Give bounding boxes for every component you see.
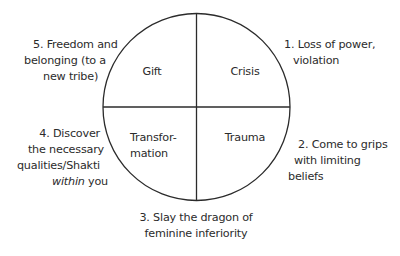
stage-4-italic-word: within [52, 175, 85, 188]
quadrant-transformation: Transfor- mation [130, 130, 192, 162]
stage-4-line4: within you [14, 174, 108, 190]
stage-5-line2: belonging (to a [24, 53, 112, 69]
stage-4-line1: 4. Discover [14, 126, 108, 142]
stage-3-line2: feminine inferiority [120, 226, 272, 242]
stage-4-rest: you [85, 175, 108, 188]
stage-5-label: 5. Freedom and belonging (to a new tribe… [24, 37, 112, 85]
stage-1-line1: 1. Loss of power, [284, 37, 375, 53]
quadrant-crisis-text: Crisis [230, 65, 259, 78]
stage-2-label: 2. Come to grips with limiting beliefs [288, 137, 388, 185]
stage-4-line3: qualities/Shakti [14, 158, 108, 174]
stage-5-line3: new tribe) [24, 69, 112, 85]
stage-4-line2: the necessary [14, 142, 108, 158]
stage-5-line1: 5. Freedom and [24, 37, 112, 53]
quadrant-trauma: Trauma [214, 130, 276, 146]
stage-1-label: 1. Loss of power, violation [284, 37, 375, 69]
stage-3-label: 3. Slay the dragon of feminine inferiori… [120, 210, 272, 242]
quadrant-gift: Gift [124, 64, 180, 80]
quadrant-gift-text: Gift [142, 65, 161, 78]
stage-2-line2: with limiting [288, 153, 388, 169]
stage-2-line3: beliefs [288, 169, 388, 185]
stage-2-line1: 2. Come to grips [288, 137, 388, 153]
quadrant-crisis: Crisis [214, 64, 276, 80]
stage-1-line2: violation [284, 53, 375, 69]
quadrant-trauma-text: Trauma [225, 131, 265, 144]
stage-4-label: 4. Discover the necessary qualities/Shak… [14, 126, 108, 190]
quadrant-transformation-line2: mation [130, 146, 192, 162]
quadrant-transformation-line1: Transfor- [130, 130, 192, 146]
stage-3-line1: 3. Slay the dragon of [120, 210, 272, 226]
